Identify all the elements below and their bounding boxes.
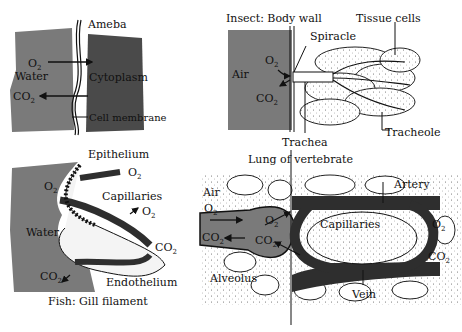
air-label: Air bbox=[231, 68, 249, 81]
artery-label: Artery bbox=[393, 178, 430, 191]
co2-label: CO bbox=[13, 90, 30, 103]
co2-label: CO bbox=[202, 231, 219, 244]
respiration-diagram: Ameba O2 Water CO2 Cytoplasm Cell membra… bbox=[0, 0, 462, 332]
o2-label: O bbox=[28, 57, 37, 70]
tissue-cells-label: Tissue cells bbox=[356, 12, 421, 25]
capillaries-label: Capillaries bbox=[102, 190, 162, 203]
water-label: Water bbox=[26, 226, 60, 239]
ameba-title: Ameba bbox=[87, 18, 127, 31]
epithelium-label: Epithelium bbox=[88, 148, 150, 161]
o2-label: O bbox=[265, 214, 274, 227]
lung-title: Lung of vertebrate bbox=[248, 153, 353, 166]
svg-text:O2: O2 bbox=[128, 166, 142, 181]
insect-panel: Insect: Body wall Spiracle Tissue cells … bbox=[226, 12, 441, 149]
o2-label: O bbox=[142, 205, 151, 218]
trachea-label: Trachea bbox=[282, 136, 328, 149]
insect-title: Insect: Body wall bbox=[226, 12, 322, 25]
o2-label: O bbox=[44, 180, 53, 193]
cytoplasm-label: Cytoplasm bbox=[89, 71, 148, 84]
lung-panel: Lung of vertebrate Air O2 CO2 O2 CO2 Alv… bbox=[200, 150, 462, 325]
co2-label: CO bbox=[255, 234, 272, 247]
co2-label: CO bbox=[428, 250, 445, 263]
gill-tissue bbox=[59, 165, 165, 276]
air-label: Air bbox=[202, 186, 220, 199]
svg-text:O2: O2 bbox=[142, 205, 156, 220]
o2-label: O bbox=[432, 218, 441, 231]
tracheole-label: Tracheole bbox=[385, 126, 441, 139]
svg-text:CO2: CO2 bbox=[155, 241, 177, 256]
co2-label: CO bbox=[256, 92, 273, 105]
alveolus-label: Alveolus bbox=[209, 272, 257, 285]
endothelium-label: Endothelium bbox=[106, 276, 178, 289]
o2-label: O bbox=[128, 166, 137, 179]
fish-title: Fish: Gill filament bbox=[48, 295, 148, 308]
ameba-panel: Ameba O2 Water CO2 Cytoplasm Cell membra… bbox=[10, 18, 167, 135]
tissue-cells bbox=[300, 47, 420, 125]
fish-panel: Epithelium O2 O2 Capillaries O2 Water CO… bbox=[10, 148, 178, 308]
co2-label: CO bbox=[40, 270, 57, 283]
co2-label: CO bbox=[155, 241, 172, 254]
o2-label: O bbox=[204, 202, 213, 215]
membrane-label: Cell membrane bbox=[89, 112, 167, 123]
o2-label: O bbox=[265, 54, 274, 67]
water-label: Water bbox=[15, 70, 49, 83]
capillaries-label: Capillaries bbox=[320, 218, 380, 231]
spiracle-label: Spiracle bbox=[310, 30, 356, 43]
vein-label: Vein bbox=[351, 288, 376, 301]
capillary-vessel bbox=[80, 172, 120, 178]
